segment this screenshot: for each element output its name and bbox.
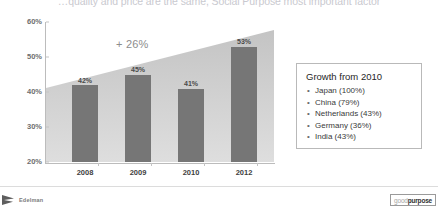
bar-2010[interactable]: 41% — [178, 89, 204, 163]
bar-value-label-2010: 41% — [184, 80, 198, 87]
x-axis-line — [45, 163, 275, 164]
x-tick-mark-2009 — [151, 163, 152, 166]
x-tick-label-2008: 2008 — [77, 168, 94, 177]
list-item: •Netherlands (43%) — [306, 108, 415, 120]
bar-value-label-2012: 53% — [237, 38, 251, 45]
y-tick-label-60: 60% — [27, 17, 42, 26]
goodpurpose-logo: goodpurpose — [390, 194, 436, 206]
bar-value-label-2009: 45% — [131, 66, 145, 73]
plot-area: 60% 50% 40% 30% 20% 42% 45% 41% 53% — [46, 22, 274, 162]
y-gridline-50: 50% — [46, 57, 49, 58]
goodpurpose-good-label: good — [394, 197, 408, 204]
list-item-label: China (79%) — [315, 98, 359, 107]
footer-divider — [0, 186, 438, 187]
bullet-icon: • — [307, 131, 310, 143]
x-tick-label-2012: 2012 — [236, 168, 253, 177]
bar-2008[interactable]: 42% — [72, 85, 98, 162]
list-item-label: Netherlands (43%) — [315, 109, 382, 118]
y-tick-label-30: 30% — [27, 122, 42, 131]
y-tick-label-20: 20% — [27, 157, 42, 166]
bar-2012[interactable]: 53% — [231, 47, 257, 163]
bar-chart: 60% 50% 40% 30% 20% 42% 45% 41% 53% + 26… — [8, 16, 280, 182]
x-tick-label-2009: 2009 — [130, 168, 147, 177]
bullet-icon: • — [307, 120, 310, 132]
bullet-icon: • — [307, 97, 310, 109]
growth-annotation: + 26% — [116, 38, 149, 50]
x-tick-mark-2012 — [257, 163, 258, 166]
y-tick-label-40: 40% — [27, 87, 42, 96]
x-tick-label-2010: 2010 — [183, 168, 200, 177]
y-gridline-60: 60% — [46, 22, 49, 23]
y-gridline-30: 30% — [46, 127, 49, 128]
list-item: •Germany (36%) — [306, 120, 415, 132]
list-item: •India (43%) — [306, 131, 415, 143]
goodpurpose-purpose-label: purpose — [408, 197, 432, 204]
bullet-icon: • — [307, 108, 310, 120]
growth-callout-box: Growth from 2010 •Japan (100%) •China (7… — [296, 63, 422, 149]
slide-headline: …quality and price are the same, Social … — [0, 0, 438, 8]
edelman-label: Edelman — [19, 197, 43, 203]
y-tick-label-50: 50% — [27, 52, 42, 61]
callout-list: •Japan (100%) •China (79%) •Netherlands … — [306, 85, 415, 143]
edelman-arrow-icon — [2, 194, 16, 206]
list-item: •Japan (100%) — [306, 85, 415, 97]
x-tick-mark-2010 — [204, 163, 205, 166]
bar-2009[interactable]: 45% — [125, 75, 151, 163]
list-item-label: Germany (36%) — [315, 121, 371, 130]
list-item-label: India (43%) — [315, 132, 356, 141]
list-item-label: Japan (100%) — [315, 86, 365, 95]
y-gridline-40: 40% — [46, 92, 49, 93]
list-item: •China (79%) — [306, 97, 415, 109]
bullet-icon: • — [307, 85, 310, 97]
x-tick-mark-2008 — [98, 163, 99, 166]
edelman-logo: Edelman — [2, 194, 43, 206]
callout-title: Growth from 2010 — [306, 71, 415, 82]
bar-value-label-2008: 42% — [78, 77, 92, 84]
